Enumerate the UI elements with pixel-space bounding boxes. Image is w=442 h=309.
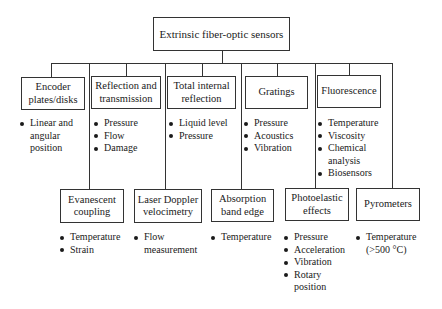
root-label: Extrinsic fiber-optic sensors (160, 28, 284, 41)
box-label: Laser Doppler velocimetry (135, 194, 201, 219)
list-item: Temperature (59, 231, 120, 244)
list-item: Acceleration (283, 244, 345, 257)
box-absorption-band-edge: Absorption band edge (211, 189, 274, 222)
box-label: Photoelastic effects (286, 192, 348, 217)
drop-pyrometers (392, 63, 393, 188)
box-label: Pyrometers (364, 198, 412, 211)
list-item: Strain (59, 244, 120, 257)
list-item: Liquid level (168, 117, 228, 130)
drop-encoder (51, 63, 52, 77)
box-evanescent-coupling: Evanescent coupling (60, 189, 124, 223)
box-pyrometers: Pyrometers (356, 188, 420, 221)
box-gratings: Gratings (245, 76, 308, 109)
list-item: Flow (93, 130, 138, 143)
list-item: Pressure (93, 117, 138, 130)
box-laser-doppler: Laser Doppler velocimetry (134, 189, 202, 223)
list-pyrometers: Temperature (>500 °C) (355, 231, 416, 256)
drop-fluorescence (349, 63, 350, 75)
list-gratings: Pressure Acoustics Vibration (243, 117, 293, 155)
list-item: Linear and angular position (19, 117, 73, 155)
drop-total-internal (202, 63, 203, 76)
list-item: Damage (93, 142, 138, 155)
box-encoder-plates: Encoder plates/disks (21, 77, 85, 110)
list-encoder-plates: Linear and angular position (19, 117, 73, 155)
box-label: Total internal reflection (168, 80, 235, 105)
box-photoelastic-effects: Photoelastic effects (285, 188, 349, 221)
box-label: Gratings (258, 86, 294, 99)
drop-reflection (126, 63, 127, 76)
list-item: Biosensors (317, 167, 378, 180)
list-item: Temperature (210, 231, 271, 244)
list-item: Pressure (243, 117, 293, 130)
list-item: Acoustics (243, 130, 293, 143)
list-photoelastic-effects: Pressure Acceleration Vibration Rotary p… (283, 231, 345, 294)
root-stem (222, 51, 223, 63)
list-item: Chemical analysis (317, 142, 378, 167)
box-label: Reflection and transmission (92, 80, 160, 105)
list-absorption-band-edge: Temperature (210, 231, 271, 244)
list-fluorescence: Temperature Viscosity Chemical analysis … (317, 117, 378, 180)
list-item: Pressure (168, 130, 228, 143)
box-label: Absorption band edge (212, 193, 273, 218)
list-evanescent-coupling: Temperature Strain (59, 231, 120, 256)
root-box: Extrinsic fiber-optic sensors (153, 17, 290, 51)
list-item: Rotary position (283, 269, 345, 294)
box-reflection-transmission: Reflection and transmission (91, 76, 161, 109)
list-item: Viscosity (317, 130, 378, 143)
list-laser-doppler: Flow measurement (133, 231, 197, 256)
box-total-internal-reflection: Total internal reflection (167, 76, 236, 109)
box-label: Encoder plates/disks (22, 81, 84, 106)
list-item: Vibration (243, 142, 293, 155)
list-item: Vibration (283, 256, 345, 269)
list-item: Temperature (317, 117, 378, 130)
list-item: Flow measurement (133, 231, 197, 256)
box-label: Fluorescence (321, 85, 376, 98)
list-item: Temperature (>500 °C) (355, 231, 416, 256)
drop-gratings (277, 63, 278, 76)
list-item: Pressure (283, 231, 345, 244)
list-reflection-transmission: Pressure Flow Damage (93, 117, 138, 155)
box-fluorescence: Fluorescence (317, 75, 381, 108)
list-total-internal-reflection: Liquid level Pressure (168, 117, 228, 142)
box-label: Evanescent coupling (61, 194, 123, 219)
main-bus (51, 63, 393, 64)
